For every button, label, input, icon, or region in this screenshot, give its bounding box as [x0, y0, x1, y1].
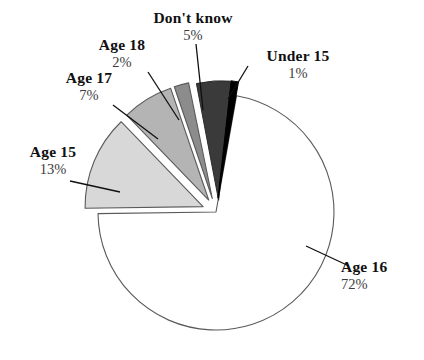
slice-label-age-15-name: Age 15 — [6, 143, 100, 160]
slice-label-age-17-name: Age 17 — [44, 69, 134, 86]
slice-label-age-16-name: Age 16 — [341, 258, 423, 275]
slice-label-age-16-value: 72% — [341, 276, 423, 292]
pie-chart-figure: Don't know 5% Under 15 1% Age 18 2% Age … — [0, 0, 424, 360]
slice-label-age-16: Age 16 72% — [341, 258, 423, 293]
slice-label-age-18: Age 18 2% — [77, 36, 167, 71]
slice-label-under-15-value: 1% — [243, 65, 353, 81]
slice-label-age-15-value: 13% — [6, 161, 100, 177]
pie-chart-canvas — [0, 0, 424, 360]
slice-label-age-15: Age 15 13% — [6, 143, 100, 178]
slice-label-age-17: Age 17 7% — [44, 69, 134, 104]
slice-label-under-15-name: Under 15 — [243, 47, 353, 64]
slice-label-under-15: Under 15 1% — [243, 47, 353, 82]
slice-label-dont-know-name: Don't know — [133, 9, 253, 26]
slice-label-age-18-name: Age 18 — [77, 36, 167, 53]
slice-label-age-17-value: 7% — [44, 87, 134, 103]
